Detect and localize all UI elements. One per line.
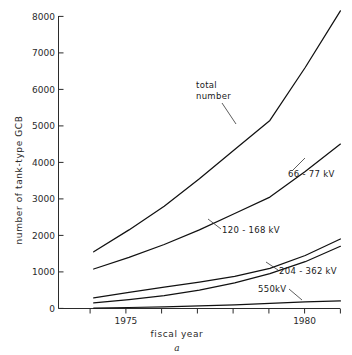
- leader-line: [289, 289, 302, 300]
- x-axis-tick-labels: 1975 1980: [114, 316, 316, 326]
- x-tick-label-1975: 1975: [114, 316, 137, 326]
- annotation-label: 550kV: [258, 284, 286, 294]
- annotation-66-77-kv: 66 - 77 kV: [288, 158, 335, 179]
- leader-line: [222, 103, 236, 124]
- x-axis-title: fiscal year: [151, 329, 204, 339]
- y-tick-label: 3000: [32, 194, 55, 204]
- y-tick-label: 5000: [32, 121, 55, 131]
- annotation-total-number: total number: [196, 80, 236, 124]
- y-tick-label: 6000: [32, 85, 55, 95]
- y-tick-label: 4000: [32, 158, 55, 168]
- annotation-label: 66 - 77 kV: [288, 169, 335, 179]
- y-axis-ticks: [59, 16, 64, 308]
- annotation-label: 120 - 168 kV: [222, 225, 280, 235]
- annotation-204-362-kv: 204 - 362 kV: [266, 262, 337, 276]
- x-tick-label-1980: 1980: [293, 316, 316, 326]
- y-tick-label: 7000: [32, 48, 55, 58]
- y-tick-label: 1000: [32, 267, 55, 277]
- annotation-label: 204 - 362 kV: [279, 266, 337, 276]
- line-chart: 8000 7000 6000 5000 4000 3000 2000 1000 …: [0, 0, 352, 355]
- annotation-label-line1: total: [196, 80, 217, 90]
- cropped-caption-artifact: . . . .: [0, 0, 352, 5]
- y-axis-tick-labels: 8000 7000 6000 5000 4000 3000 2000 1000 …: [32, 12, 55, 314]
- series-line-total-number: [94, 11, 341, 252]
- y-axis-title: number of tank-type GCB: [14, 116, 24, 245]
- series-line-550-kv: [94, 301, 341, 308]
- subfigure-label: a: [174, 343, 179, 353]
- series-line-66-77-kv: [94, 144, 341, 269]
- x-axis-ticks: [90, 309, 340, 314]
- figure-container: . . . . 8000 7000 6000 5000 4000: [0, 0, 352, 355]
- y-tick-label: 2000: [32, 231, 55, 241]
- y-tick-label: 8000: [32, 12, 55, 22]
- annotation-550-kv: 550kV: [258, 284, 302, 300]
- annotation-label-line2: number: [196, 91, 231, 101]
- y-tick-label: 0: [49, 304, 55, 314]
